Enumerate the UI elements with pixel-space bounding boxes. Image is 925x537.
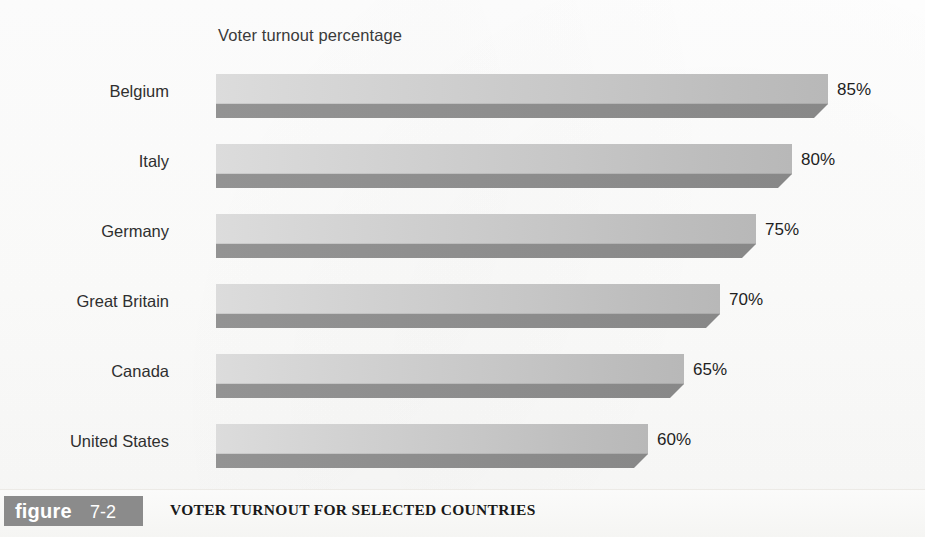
bar: [216, 214, 756, 258]
figure-number-badge: figure 7-2: [4, 496, 143, 526]
bar-front-face: [216, 244, 756, 258]
category-label: Canada: [0, 362, 169, 381]
bar-row: Great Britain70%: [0, 270, 925, 340]
bar-chart: Voter turnout percentage Belgium85%Italy…: [0, 0, 925, 490]
bar-top-face: [216, 354, 684, 384]
bar: [216, 424, 648, 468]
bar-row: Belgium85%: [0, 60, 925, 130]
bar: [216, 284, 720, 328]
bar-row: United States60%: [0, 410, 925, 480]
bar-top-face: [216, 144, 792, 174]
category-label: Belgium: [0, 82, 169, 101]
bar-top-face: [216, 74, 828, 104]
category-label: Italy: [0, 152, 169, 171]
bar-top-face: [216, 424, 648, 454]
bar-value-label: 65%: [693, 360, 727, 380]
bar: [216, 74, 828, 118]
chart-title: Voter turnout percentage: [218, 26, 402, 45]
bar-top-face: [216, 284, 720, 314]
bar-top-face: [216, 214, 756, 244]
category-label: Great Britain: [0, 292, 169, 311]
bar: [216, 354, 684, 398]
figure-badge-number: 7-2: [90, 502, 116, 523]
bar-value-label: 70%: [729, 290, 763, 310]
bar-value-label: 85%: [837, 80, 871, 100]
bar-row: Germany75%: [0, 200, 925, 270]
bar-value-label: 75%: [765, 220, 799, 240]
figure-badge-word: figure: [15, 500, 72, 523]
category-label: United States: [0, 432, 169, 451]
bar-front-face: [216, 174, 792, 188]
figure-caption-bar: figure 7-2 VOTER TURNOUT FOR SELECTED CO…: [0, 489, 925, 537]
bar-front-face: [216, 384, 684, 398]
category-label: Germany: [0, 222, 169, 241]
bar-value-label: 80%: [801, 150, 835, 170]
figure-caption-text: VOTER TURNOUT FOR SELECTED COUNTRIES: [170, 501, 536, 519]
bar-front-face: [216, 314, 720, 328]
bar: [216, 144, 792, 188]
bar-row: Italy80%: [0, 130, 925, 200]
bar-value-label: 60%: [657, 430, 691, 450]
bar-front-face: [216, 104, 828, 118]
bar-front-face: [216, 454, 648, 468]
bar-row: Canada65%: [0, 340, 925, 410]
